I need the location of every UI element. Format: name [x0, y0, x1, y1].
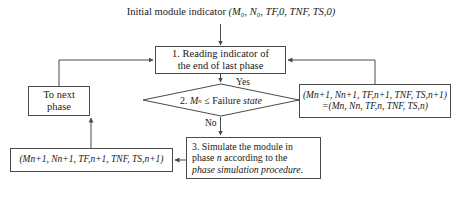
initial-module-indicator-label: Initial module indicator (M₀, N₀, TF,0, …	[96, 6, 366, 18]
edge-label-yes: Yes	[236, 77, 270, 88]
reading-line-1: 1. Reading indicator of	[172, 48, 269, 60]
simulate-line-2-a: phase	[192, 152, 217, 163]
node-failure-state-decision[interactable]: 2. Mn ≤ Failure state	[142, 83, 300, 117]
node-result-indicator[interactable]: (Mn+1, Nn+1, TF,n+1, TNF, TS,n+1)	[10, 148, 173, 172]
next-phase-line-1: To next	[43, 89, 75, 101]
flowchart-canvas: Initial module indicator (M₀, N₀, TF,0, …	[0, 0, 461, 200]
simulate-line-2-b: according to the	[222, 152, 288, 163]
simulate-line-1: 3. Simulate the module in	[192, 141, 293, 153]
update-line-2: =(Mn, Nn, TF,n, TNF, TS,n)	[322, 101, 428, 112]
decision-label: 2. Mn ≤ Failure state	[142, 83, 300, 117]
decision-variable: M	[190, 95, 198, 106]
node-indicator-update[interactable]: (Mn+1, Nn+1, TF,n+1, TNF, TS,n+1) =(Mn, …	[299, 84, 451, 118]
initial-indicator-text: Initial module indicator (M₀, N₀, TF,0, …	[127, 6, 335, 17]
simulate-procedure-name: phase simulation procedure.	[192, 164, 303, 176]
node-reading-indicator[interactable]: 1. Reading indicator of the end of last …	[155, 46, 286, 74]
edge-label-no: No	[205, 118, 239, 129]
node-to-next-phase[interactable]: To next phase	[28, 86, 90, 116]
decision-predicate: Failure	[212, 95, 240, 106]
decision-predicate-italic: state	[243, 95, 262, 106]
update-line-1: (Mn+1, Nn+1, TF,n+1, TNF, TS,n+1)	[303, 90, 447, 101]
decision-number: 2.	[180, 95, 188, 106]
result-tuple: (Mn+1, Nn+1, TF,n+1, TNF, TS,n+1)	[19, 154, 163, 165]
node-simulate-module[interactable]: 3. Simulate the module in phase n accord…	[186, 137, 321, 179]
simulate-line-2: phase n according to the	[192, 152, 287, 164]
reading-line-2: the end of last phase	[178, 60, 264, 72]
next-phase-line-2: phase	[47, 101, 71, 113]
initial-indicator-tuple: (M₀, N₀, TF,0, TNF, TS,0)	[229, 6, 336, 17]
